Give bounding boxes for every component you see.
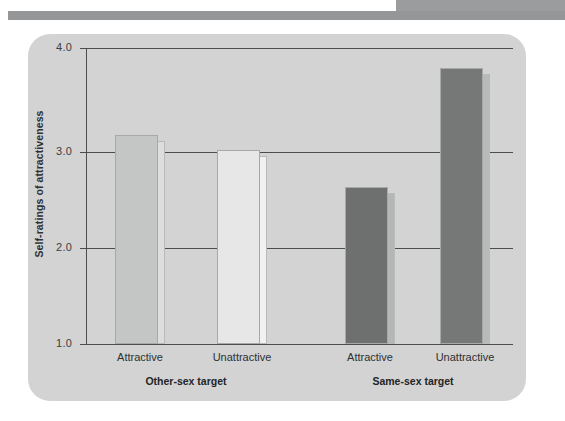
- bar-same-sex-unattractive: [440, 68, 490, 344]
- x-tick-label-other-attractive: Attractive: [85, 351, 195, 363]
- bar-side-shadow: [158, 141, 165, 344]
- bar-face: [217, 150, 260, 344]
- gridline-4: [86, 48, 513, 49]
- gridline-1: [86, 344, 513, 345]
- x-tick-label-same-attractive: Attractive: [315, 351, 425, 363]
- group-label-other-sex: Other-sex target: [86, 375, 286, 387]
- bar-side-shadow: [388, 193, 395, 344]
- bar-face: [115, 135, 158, 344]
- y-tick-3: [80, 152, 87, 153]
- y-axis-line: [86, 48, 87, 345]
- bar-side-shadow: [483, 74, 490, 344]
- y-tick-label-4: 4.0: [32, 41, 72, 53]
- y-tick-label-1: 1.0: [32, 337, 72, 349]
- y-tick-label-2: 2.0: [32, 241, 72, 253]
- bar-face: [345, 187, 388, 344]
- bar-other-sex-attractive: [115, 135, 165, 344]
- bar-side-shadow: [260, 156, 267, 344]
- x-tick-label-other-unattractive: Unattractive: [187, 351, 297, 363]
- y-tick-4: [80, 48, 87, 49]
- x-tick-label-same-unattractive: Unattractive: [410, 351, 520, 363]
- y-tick-2: [80, 248, 87, 249]
- group-label-same-sex: Same-sex target: [313, 375, 513, 387]
- bar-face: [440, 68, 483, 344]
- bar-other-sex-unattractive: [217, 150, 267, 344]
- bar-chart: Self-ratings of attractiveness 4.0 3.0 2…: [0, 0, 565, 421]
- bar-same-sex-attractive: [345, 187, 395, 344]
- y-tick-label-3: 3.0: [32, 145, 72, 157]
- y-tick-1: [80, 344, 87, 345]
